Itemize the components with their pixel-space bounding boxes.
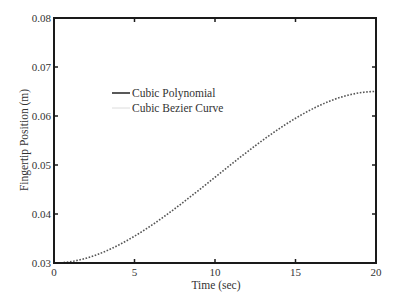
x-tick-label: 10 bbox=[210, 266, 222, 278]
plot-area bbox=[54, 92, 376, 264]
x-tick-label: 15 bbox=[290, 266, 302, 278]
line-chart: 051015200.030.040.050.060.070.08 Time (s… bbox=[0, 0, 400, 307]
x-tick-label: 20 bbox=[371, 266, 383, 278]
plot-frame bbox=[54, 18, 376, 263]
x-axis-label: Time (sec) bbox=[191, 279, 240, 292]
legend: Cubic Polynomial Cubic Bezier Curve bbox=[112, 87, 223, 114]
y-tick-label: 0.06 bbox=[32, 110, 52, 122]
series-cubic-bezier-curve bbox=[54, 92, 376, 264]
y-tick-label: 0.07 bbox=[32, 61, 52, 73]
x-tick-label: 5 bbox=[132, 266, 138, 278]
y-tick-label: 0.03 bbox=[32, 257, 52, 269]
y-tick-label: 0.08 bbox=[32, 12, 52, 24]
y-tick-label: 0.04 bbox=[32, 208, 52, 220]
legend-label-cubic-polynomial: Cubic Polynomial bbox=[132, 87, 215, 100]
y-axis-label: Fingertip Position (m) bbox=[18, 89, 31, 191]
y-tick-label: 0.05 bbox=[32, 159, 52, 171]
legend-label-cubic-bezier: Cubic Bezier Curve bbox=[132, 102, 223, 114]
x-tick-label: 0 bbox=[51, 266, 57, 278]
axes: 051015200.030.040.050.060.070.08 bbox=[32, 12, 382, 278]
